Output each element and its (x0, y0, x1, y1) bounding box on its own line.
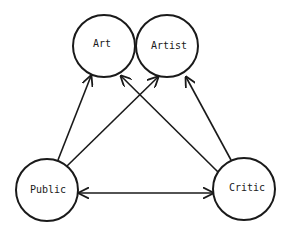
node-art-label: Art (93, 38, 111, 49)
node-art: Art (73, 15, 135, 77)
node-critic-label: Critic (229, 182, 265, 193)
edge-critic-to-art (121, 76, 218, 172)
node-public: Public (16, 159, 78, 221)
node-artist-label: Artist (151, 40, 187, 51)
edge-public-to-artist (67, 77, 158, 166)
node-artist: Artist (136, 15, 198, 77)
relationship-diagram: Art Artist Public Critic (0, 0, 290, 234)
node-critic: Critic (213, 158, 275, 220)
node-public-label: Public (30, 184, 66, 195)
